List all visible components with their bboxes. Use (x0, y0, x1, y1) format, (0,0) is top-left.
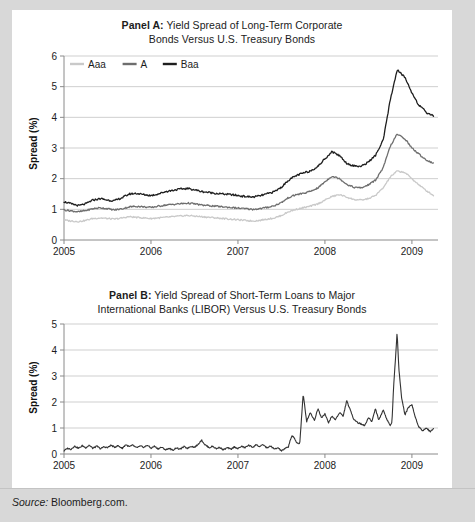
panel-b-plot: Spread (%) 01234520052006200720082009 (12, 316, 452, 476)
svg-text:2: 2 (51, 397, 57, 408)
svg-text:0: 0 (51, 449, 57, 460)
source-value: Bloomberg.com. (51, 496, 127, 508)
panel-a-title-line2: Bonds Versus U.S. Treasury Bonds (149, 33, 315, 45)
source-note: Source: Bloomberg.com. (12, 496, 128, 508)
svg-text:Baa: Baa (181, 59, 199, 70)
svg-text:2006: 2006 (140, 460, 163, 471)
source-label: Source: (12, 496, 48, 508)
svg-text:1: 1 (51, 423, 57, 434)
svg-text:5: 5 (51, 81, 57, 92)
svg-text:A: A (141, 59, 148, 70)
svg-text:2006: 2006 (140, 246, 163, 257)
svg-text:4: 4 (51, 112, 57, 123)
panel-b: Panel B: Yield Spread of Short-Term Loan… (12, 288, 452, 488)
svg-text:2007: 2007 (227, 246, 250, 257)
svg-text:2009: 2009 (401, 246, 424, 257)
svg-text:0: 0 (51, 235, 57, 246)
panel-b-title-line2: International Banks (LIBOR) Versus U.S. … (98, 303, 367, 315)
svg-text:2009: 2009 (401, 460, 424, 471)
svg-text:3: 3 (51, 371, 57, 382)
svg-text:4: 4 (51, 345, 57, 356)
figure-card: Panel A: Yield Spread of Long-Term Corpo… (12, 10, 452, 488)
svg-text:2005: 2005 (53, 460, 76, 471)
panel-a-plot: Spread (%) 012345620052006200720082009Aa… (12, 46, 452, 262)
svg-text:2008: 2008 (314, 246, 337, 257)
svg-text:1: 1 (51, 204, 57, 215)
panel-a-ylabel: Spread (%) (28, 109, 39, 179)
panel-b-title-rest: Yield Spread of Short-Term Loans to Majo… (151, 289, 355, 301)
svg-text:Aaa: Aaa (88, 59, 106, 70)
svg-text:2008: 2008 (314, 460, 337, 471)
panel-b-title: Panel B: Yield Spread of Short-Term Loan… (12, 288, 452, 316)
footer-divider (0, 488, 475, 489)
figure-frame: Panel A: Yield Spread of Long-Term Corpo… (0, 0, 475, 522)
panel-a-title-rest: Yield Spread of Long-Term Corporate (164, 19, 343, 31)
svg-text:2005: 2005 (53, 246, 76, 257)
svg-text:5: 5 (51, 319, 57, 330)
panel-b-chart-svg: 01234520052006200720082009 (12, 316, 452, 476)
svg-text:3: 3 (51, 143, 57, 154)
panel-a-title: Panel A: Yield Spread of Long-Term Corpo… (12, 18, 452, 46)
svg-text:2: 2 (51, 173, 57, 184)
panel-b-ylabel: Spread (%) (28, 353, 39, 423)
panel-b-title-lead: Panel B: (109, 289, 151, 301)
panel-a: Panel A: Yield Spread of Long-Term Corpo… (12, 18, 452, 280)
svg-text:2007: 2007 (227, 460, 250, 471)
panel-a-title-lead: Panel A: (122, 19, 164, 31)
svg-text:6: 6 (51, 51, 57, 62)
panel-a-chart-svg: 012345620052006200720082009AaaABaa (12, 46, 452, 262)
